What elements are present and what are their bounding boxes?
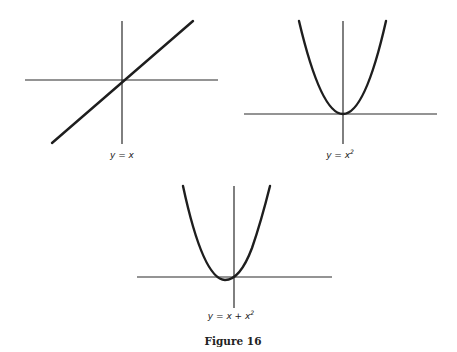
equation-label-linear: y = x [109,150,135,160]
figure-caption: Figure 16 [205,335,262,347]
equation-label-sum: y = x + x2 [207,309,255,321]
graph-sum: y = x + x2 [137,186,332,321]
equation-label-square: y = x2 [325,148,354,160]
graph-linear: y = x [25,21,218,160]
parabola-x-plus-x-squared [183,186,270,280]
graph-square: y = x2 [244,21,437,160]
figure-16: y = x y = x2 y = x + x2 Figure 16 [0,0,457,352]
